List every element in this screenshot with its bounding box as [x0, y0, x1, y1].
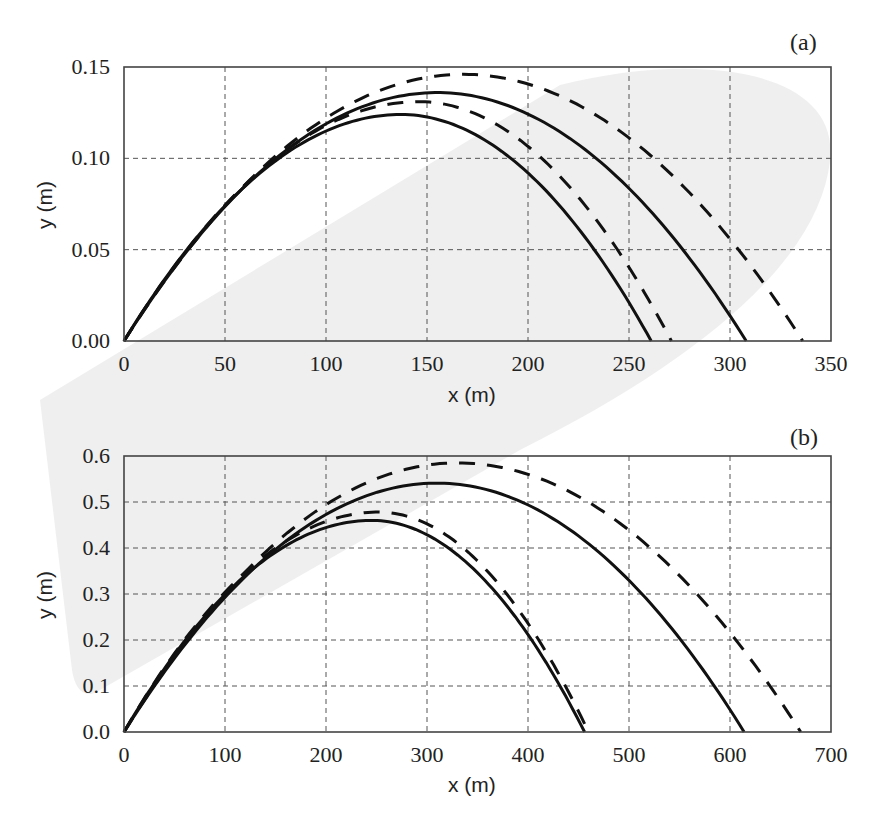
x-tick-label: 0 [119, 351, 130, 376]
x-tick-label: 500 [613, 742, 646, 767]
y-tick-label: 0.4 [83, 535, 111, 560]
y-tick-label: 0.0 [83, 719, 111, 744]
x-tick-label: 200 [512, 351, 545, 376]
x-tick-label: 400 [512, 742, 545, 767]
x-tick-label: 350 [815, 351, 848, 376]
y-tick-label: 0.05 [72, 237, 111, 262]
panel-b-label: (b) [790, 424, 818, 450]
y-tick-label: 0.1 [83, 673, 111, 698]
y-tick-label: 0.10 [72, 145, 111, 170]
panel-b-xlabel: x (m) [448, 773, 496, 796]
watermark-shape [40, 69, 831, 694]
y-tick-label: 0.15 [72, 54, 111, 79]
x-tick-label: 250 [613, 351, 646, 376]
x-tick-label: 600 [714, 742, 747, 767]
panel-b-ylabel: y (m) [33, 571, 56, 619]
x-tick-label: 0 [119, 742, 130, 767]
panel-a-label: (a) [790, 29, 817, 55]
x-tick-label: 200 [310, 742, 343, 767]
y-tick-label: 0.00 [72, 328, 111, 353]
x-tick-label: 100 [209, 742, 242, 767]
panel-a-xlabel: x (m) [448, 383, 496, 406]
x-tick-label: 300 [411, 742, 444, 767]
x-tick-label: 150 [411, 351, 444, 376]
x-tick-label: 50 [214, 351, 236, 376]
y-tick-label: 0.5 [83, 489, 111, 514]
y-tick-label: 0.6 [83, 443, 111, 468]
panel-a-ylabel: y (m) [33, 181, 56, 229]
x-tick-label: 700 [815, 742, 848, 767]
trajectory-figure: 0501001502002503003500.000.050.100.15 01… [0, 0, 879, 830]
x-tick-label: 100 [310, 351, 343, 376]
x-tick-label: 300 [714, 351, 747, 376]
y-tick-label: 0.3 [83, 581, 111, 606]
y-tick-label: 0.2 [83, 627, 111, 652]
